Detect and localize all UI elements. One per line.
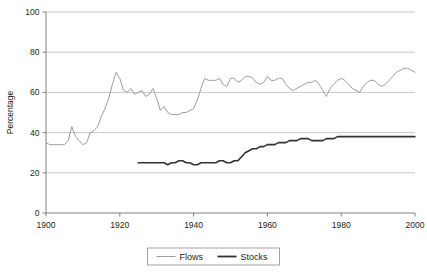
- x-tick-label-1980: 1980: [332, 220, 351, 230]
- x-tick-label-1960: 1960: [258, 220, 277, 230]
- y-tick-label-20: 20: [30, 168, 40, 178]
- y-tick-label-100: 100: [25, 7, 39, 17]
- series-group: [46, 68, 415, 164]
- axes: [46, 12, 415, 213]
- legend-label-flows: Flows: [180, 252, 204, 262]
- y-tick-label-40: 40: [30, 128, 40, 138]
- y-tick-label-60: 60: [30, 87, 40, 97]
- x-tick-label-1920: 1920: [110, 220, 129, 230]
- legend: FlowsStocks: [148, 248, 280, 265]
- chart-container: 020406080100190019201940196019802000Perc…: [0, 0, 427, 276]
- x-tick-label-2000: 2000: [406, 220, 425, 230]
- x-tick-group: 190019201940196019802000: [37, 213, 425, 230]
- y-tick-label-0: 0: [35, 208, 40, 218]
- y-tick-label-80: 80: [30, 47, 40, 57]
- x-tick-label-1940: 1940: [184, 220, 203, 230]
- series-line-flows: [46, 68, 415, 144]
- line-chart: 020406080100190019201940196019802000Perc…: [0, 0, 427, 276]
- y-tick-group: 020406080100: [25, 7, 46, 218]
- legend-label-stocks: Stocks: [241, 252, 269, 262]
- series-line-stocks: [138, 137, 415, 165]
- y-axis-title: Percentage: [5, 90, 15, 134]
- x-tick-label-1900: 1900: [37, 220, 56, 230]
